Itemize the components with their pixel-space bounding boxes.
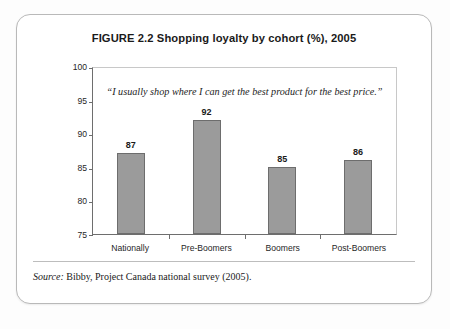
figure-title: FIGURE 2.2 Shopping loyalty by cohort (%… [17,32,431,44]
bar-slot: 85 [245,68,321,234]
y-axis-tick-label: 95 [61,96,87,105]
y-axis-tick-mark [89,102,93,103]
y-axis-tick-mark [89,169,93,170]
bar-series: 87928586 [93,68,396,234]
source-line: Source: Bibby, Project Canada national s… [33,271,415,282]
y-axis-tick-label: 75 [61,231,87,240]
x-axis-tick-mark [245,234,246,239]
bar-value-label: 86 [353,148,363,157]
x-axis-category-label: Boomers [265,243,299,253]
bar-slot: 86 [320,68,396,234]
x-axis-category-label: Pre-Boomers [181,243,232,253]
y-axis-tick-mark [89,68,93,69]
x-axis-category-label: Post-Boomers [332,243,386,253]
chart-plot-wrapper: 1009590858075 “I usually shop where I ca… [61,67,397,253]
y-axis-tick-label: 80 [61,197,87,206]
bar-value-label: 87 [126,141,136,150]
x-axis-tick-mark [320,234,321,239]
y-axis-tick-label: 85 [61,164,87,173]
bar[interactable] [268,167,296,234]
y-axis-tick-label: 100 [61,63,87,72]
source-label: Source: [33,271,64,282]
y-axis-tick-mark [89,202,93,203]
y-axis-tick-labels: 1009590858075 [61,67,87,235]
bar-value-label: 85 [277,155,287,164]
x-axis-tick-mark [169,234,170,239]
plot-area: “I usually shop where I can get the best… [92,67,397,235]
bar-slot: 87 [93,68,169,234]
y-axis-tick-label: 90 [61,130,87,139]
x-axis-category-label: Nationally [111,243,149,253]
bar[interactable] [344,160,372,234]
bar-slot: 92 [169,68,245,234]
source-text: Bibby, Project Canada national survey (2… [64,271,252,282]
y-axis-tick-mark [89,135,93,136]
bar-value-label: 92 [202,108,212,117]
figure-card: FIGURE 2.2 Shopping loyalty by cohort (%… [16,14,432,304]
y-axis-tick-mark [89,235,93,236]
source-divider [33,261,415,262]
bar[interactable] [117,153,145,234]
bar[interactable] [193,120,221,234]
x-axis-category-labels: NationallyPre-BoomersBoomersPost-Boomers [92,243,397,259]
